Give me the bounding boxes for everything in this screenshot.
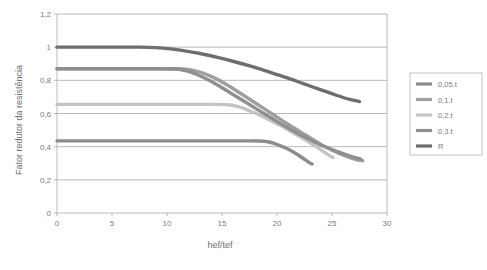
x-tick-label-3: 15 (218, 219, 227, 228)
x-tick-label-5: 25 (328, 219, 337, 228)
chart-canvas: 00,20,40,60,811,2 051015202530 Fator red… (0, 0, 487, 270)
legend-label-3: 0,3.t (438, 127, 454, 136)
plot-background (0, 0, 487, 270)
chart-figure: 00,20,40,60,811,2 051015202530 Fator red… (0, 0, 487, 270)
x-axis-title: hef/tef (207, 240, 233, 250)
legend-label-4: R (438, 142, 444, 151)
y-tick-label-1: 0,2 (40, 176, 52, 185)
x-tick-label-0: 0 (55, 219, 60, 228)
y-tick-label-4: 0,8 (40, 76, 52, 85)
y-axis-title: Fator redutor da resistência (14, 65, 24, 175)
legend-label-0: 0,05.t (438, 80, 458, 89)
y-tick-label-2: 0,4 (40, 143, 52, 152)
legend-label-1: 0,1.t (438, 96, 454, 105)
y-tick-label-6: 1,2 (40, 10, 52, 19)
y-tick-label-3: 0,6 (40, 110, 52, 119)
legend-label-2: 0,2.t (438, 111, 454, 120)
x-tick-label-1: 5 (110, 219, 115, 228)
x-tick-label-2: 10 (163, 219, 172, 228)
x-tick-label-6: 30 (383, 219, 392, 228)
y-tick-label-5: 1 (47, 43, 52, 52)
x-tick-label-4: 20 (273, 219, 282, 228)
y-tick-label-0: 0 (47, 209, 52, 218)
